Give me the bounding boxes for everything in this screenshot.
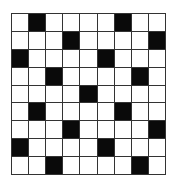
white-cell[interactable]	[46, 86, 62, 103]
white-cell[interactable]	[46, 14, 62, 31]
white-cell[interactable]	[115, 121, 131, 138]
white-cell[interactable]	[132, 103, 148, 120]
white-cell[interactable]	[132, 139, 148, 156]
white-cell[interactable]	[80, 32, 96, 49]
white-cell[interactable]	[29, 68, 45, 85]
white-cell[interactable]	[149, 14, 165, 31]
white-cell[interactable]	[132, 86, 148, 103]
black-cell	[149, 121, 165, 138]
white-cell[interactable]	[80, 14, 96, 31]
white-cell[interactable]	[132, 14, 148, 31]
white-cell[interactable]	[12, 68, 28, 85]
black-cell	[149, 32, 165, 49]
white-cell[interactable]	[12, 121, 28, 138]
black-cell	[29, 103, 45, 120]
white-cell[interactable]	[12, 103, 28, 120]
white-cell[interactable]	[63, 68, 79, 85]
white-cell[interactable]	[29, 32, 45, 49]
white-cell[interactable]	[12, 14, 28, 31]
white-cell[interactable]	[80, 157, 96, 174]
white-cell[interactable]	[29, 157, 45, 174]
white-cell[interactable]	[80, 139, 96, 156]
white-cell[interactable]	[12, 86, 28, 103]
black-cell	[132, 157, 148, 174]
black-cell	[132, 68, 148, 85]
white-cell[interactable]	[63, 50, 79, 67]
white-cell[interactable]	[46, 121, 62, 138]
black-cell	[63, 121, 79, 138]
white-cell[interactable]	[98, 103, 114, 120]
white-cell[interactable]	[98, 86, 114, 103]
white-cell[interactable]	[63, 139, 79, 156]
white-cell[interactable]	[98, 32, 114, 49]
white-cell[interactable]	[98, 68, 114, 85]
white-cell[interactable]	[115, 68, 131, 85]
white-cell[interactable]	[63, 103, 79, 120]
black-cell	[46, 68, 62, 85]
white-cell[interactable]	[98, 14, 114, 31]
white-cell[interactable]	[80, 68, 96, 85]
white-cell[interactable]	[149, 139, 165, 156]
white-cell[interactable]	[80, 121, 96, 138]
crossword-grid	[11, 13, 166, 175]
white-cell[interactable]	[12, 32, 28, 49]
white-cell[interactable]	[46, 103, 62, 120]
white-cell[interactable]	[12, 157, 28, 174]
white-cell[interactable]	[115, 86, 131, 103]
black-cell	[115, 14, 131, 31]
white-cell[interactable]	[149, 86, 165, 103]
black-cell	[98, 139, 114, 156]
white-cell[interactable]	[98, 157, 114, 174]
white-cell[interactable]	[29, 50, 45, 67]
black-cell	[115, 103, 131, 120]
white-cell[interactable]	[132, 32, 148, 49]
white-cell[interactable]	[149, 68, 165, 85]
white-cell[interactable]	[149, 157, 165, 174]
black-cell	[98, 50, 114, 67]
white-cell[interactable]	[63, 14, 79, 31]
white-cell[interactable]	[115, 157, 131, 174]
black-cell	[46, 157, 62, 174]
white-cell[interactable]	[80, 50, 96, 67]
black-cell	[80, 86, 96, 103]
white-cell[interactable]	[29, 121, 45, 138]
white-cell[interactable]	[63, 157, 79, 174]
white-cell[interactable]	[46, 139, 62, 156]
white-cell[interactable]	[115, 139, 131, 156]
white-cell[interactable]	[149, 103, 165, 120]
white-cell[interactable]	[132, 121, 148, 138]
white-cell[interactable]	[98, 121, 114, 138]
black-cell	[12, 139, 28, 156]
white-cell[interactable]	[115, 50, 131, 67]
white-cell[interactable]	[46, 32, 62, 49]
black-cell	[29, 14, 45, 31]
white-cell[interactable]	[29, 86, 45, 103]
black-cell	[12, 50, 28, 67]
black-cell	[63, 32, 79, 49]
white-cell[interactable]	[115, 32, 131, 49]
white-cell[interactable]	[46, 50, 62, 67]
white-cell[interactable]	[63, 86, 79, 103]
white-cell[interactable]	[149, 50, 165, 67]
white-cell[interactable]	[29, 139, 45, 156]
white-cell[interactable]	[132, 50, 148, 67]
white-cell[interactable]	[80, 103, 96, 120]
